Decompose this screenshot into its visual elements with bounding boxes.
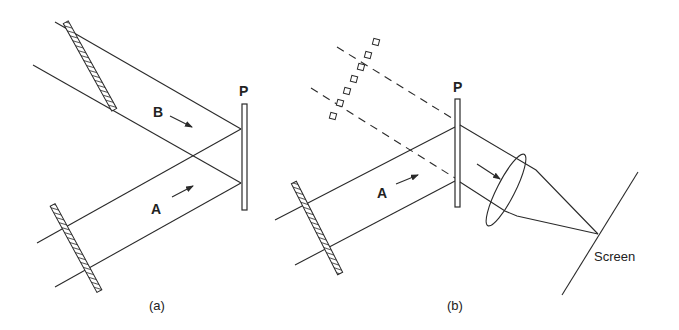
- panel-a: P B A (a): [33, 21, 248, 313]
- beam-a-upper-ray: [275, 127, 455, 220]
- dashed-grating: [329, 38, 379, 119]
- output-upper-ray: [460, 125, 598, 234]
- beam-b-upper-ray: [55, 22, 241, 129]
- beam-a-direction-arrow-icon: [396, 175, 418, 184]
- plate-p-label: P: [239, 83, 248, 99]
- plate-p: [242, 104, 247, 210]
- optics-diagram: P B A (a) P: [0, 0, 679, 330]
- beam-b-lower-ray: [33, 65, 241, 183]
- beam-b-direction-arrow-icon: [170, 116, 192, 127]
- beam-a-lower-ray: [55, 183, 241, 287]
- beam-a-lower-ray: [295, 181, 455, 265]
- beam-a-label: A: [151, 201, 161, 217]
- beam-b-label: B: [153, 104, 163, 120]
- screen: [562, 172, 638, 295]
- beam-a-label: A: [377, 185, 387, 201]
- screen-label: Screen: [594, 249, 635, 264]
- plate-p-label: P: [453, 79, 462, 95]
- output-direction-arrow-icon: [477, 164, 500, 179]
- lower-grating: [291, 181, 342, 274]
- plate-p: [455, 99, 460, 207]
- panel-a-caption: (a): [149, 298, 165, 313]
- lower-grating: [50, 204, 102, 293]
- beam-a-direction-arrow-icon: [172, 186, 193, 197]
- panel-b-caption: (b): [447, 298, 463, 313]
- blocked-beam-upper-ray: [337, 47, 455, 120]
- panel-b: P Screen A (b): [275, 38, 638, 313]
- output-lower-ray: [460, 182, 598, 234]
